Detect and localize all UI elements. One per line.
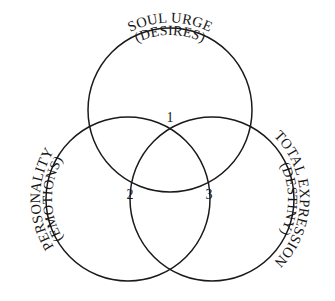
region-number-2: 2 bbox=[127, 187, 134, 202]
region-number-1: 1 bbox=[167, 110, 174, 125]
venn-diagram-figure: SOUL URGE (DESIRES) PERSONALITY (EMOTION… bbox=[0, 0, 335, 301]
venn-diagram-svg: SOUL URGE (DESIRES) PERSONALITY (EMOTION… bbox=[0, 0, 335, 301]
region-number-3: 3 bbox=[206, 187, 213, 202]
